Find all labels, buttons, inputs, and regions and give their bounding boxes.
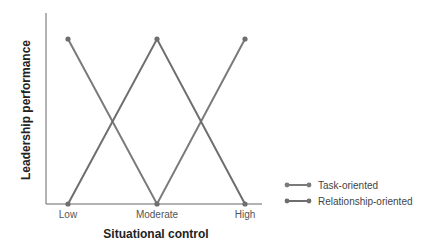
chart: Low Moderate High Situational control Le… (0, 0, 425, 244)
x-axis-label: Situational control (103, 227, 208, 241)
data-points (65, 36, 247, 206)
x-tick-high: High (235, 209, 256, 220)
series-task-oriented (68, 39, 245, 204)
x-tick-moderate: Moderate (136, 209, 179, 220)
y-axis-label: Leadership performance (19, 40, 33, 180)
legend: Task-oriented Relationship-oriented (285, 180, 413, 207)
series-relationship-oriented (68, 39, 245, 204)
legend-task-oriented: Task-oriented (318, 180, 378, 191)
legend-relationship-oriented: Relationship-oriented (318, 196, 413, 207)
x-tick-low: Low (59, 209, 78, 220)
